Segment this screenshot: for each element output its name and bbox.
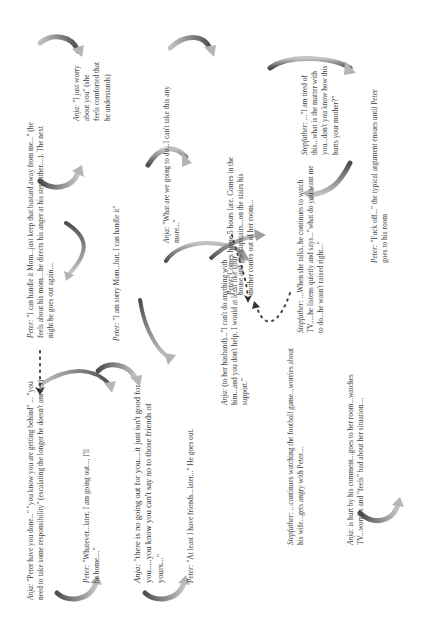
node-peter-comes-home-late: Peter: Comes home 5 hours late. Comes in… — [226, 155, 257, 295]
node-text: "Whatever...later, I am going out..., I'… — [82, 449, 101, 583]
speaker-label: Anja: — [26, 584, 35, 600]
speaker-label: Stepfather: — [286, 512, 295, 545]
node-anja-just-worry: Anja: "I just worry about you" (she feel… — [72, 61, 113, 121]
node-text: Comes home 5 hours late. Comes in the ho… — [226, 157, 255, 295]
speaker-label: Anja: — [346, 529, 355, 545]
speaker-label: Peter: — [370, 245, 379, 263]
curved-arrow-icon — [64, 223, 84, 281]
node-peter-whatever: Peter: "Whatever...later, I am going out… — [82, 443, 102, 583]
speaker-label: Peter: — [226, 277, 235, 295]
speaker-label: Stepfather: — [300, 122, 309, 155]
node-text: "I am sorry Mom...but, I can handle it" — [112, 206, 121, 323]
node-peter-sorry-mom: Peter: "I am sorry Mom...but, I can hand… — [112, 141, 122, 341]
node-stepfather-football: Stepfather: ...continues watching the fo… — [286, 345, 306, 545]
speaker-label: Stepfather: — [296, 300, 305, 333]
curved-arrow-icon — [170, 38, 216, 57]
node-text: "I can handle it Mom...just keep that ba… — [26, 122, 55, 338]
curved-arrow-icon — [140, 300, 176, 365]
rotated-diagram-page: Anja: "Peter have you done..." "you know… — [0, 0, 432, 633]
node-text: "Fuck off..." the typical argument ensue… — [370, 90, 389, 263]
node-anja-what-are-we: Anja: "What are we going to do...I can't… — [162, 83, 182, 243]
arrows-layer — [0, 0, 432, 633]
speaker-label: Anja: — [162, 227, 171, 243]
node-anja-no-going-out: Anja: "there is no going out for you....… — [132, 383, 166, 583]
node-anja-peter-have-you-done: Anja: "Peter have you done..." "you know… — [26, 370, 46, 600]
curved-arrow-icon — [40, 371, 116, 393]
speaker-label: Anja: — [72, 105, 81, 121]
dotted-arrow-icon — [252, 293, 290, 322]
node-stepfather-i-am-tired: Stepfather: ..."I am tired of this...wha… — [300, 55, 341, 155]
curved-arrow-icon — [40, 37, 84, 57]
node-peter-at-least-friends: Peter: "At least I have friends...later.… — [186, 393, 196, 583]
node-text: "there is no going out for you....it jus… — [132, 385, 165, 583]
node-peter-can-handle-it: Peter: "I can handle it Mom...just keep … — [26, 118, 57, 338]
curved-arrow-icon — [360, 497, 404, 521]
node-anja-hurt: Anja: is hurt by his comment...goes to h… — [346, 355, 366, 545]
speaker-label: Anja: — [132, 564, 142, 583]
speaker-label: Anja: — [220, 389, 229, 405]
node-text: "What are we going to do...I can't take … — [162, 86, 181, 243]
speaker-label: Peter: — [26, 320, 35, 338]
speaker-label: Peter: — [186, 565, 195, 583]
node-text: "Peter have you done..." "you know you a… — [26, 380, 45, 600]
node-text: is hurt by his comment...goes to her roo… — [346, 374, 365, 545]
node-text: "At least I have friends...later..." He … — [186, 429, 195, 565]
node-peter-fuck-off: Peter: "Fuck off..." the typical argumen… — [370, 83, 390, 263]
node-stepfather-when-she-talks: Stepfather: ...When she talks, he contin… — [296, 158, 327, 333]
speaker-label: Peter: — [112, 323, 121, 341]
speaker-label: Peter: — [82, 565, 91, 583]
